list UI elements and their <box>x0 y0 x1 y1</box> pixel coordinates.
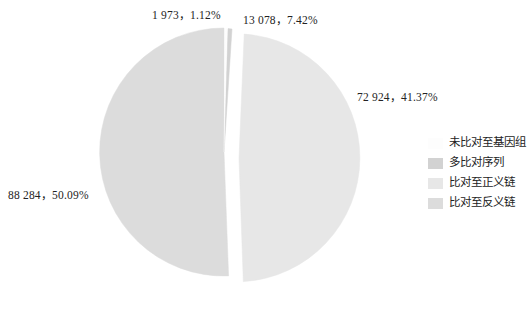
legend-item-antisense[interactable]: 比对至反义链 <box>428 193 528 213</box>
data-label-multi: 13 078，7.42% <box>243 15 318 27</box>
pie-svg <box>0 0 420 332</box>
data-label-unmapped: 1 973，1.12% <box>152 10 221 22</box>
data-label-sense: 72 924，41.37% <box>357 92 438 104</box>
pie-chart: 1 973，1.12% 13 078，7.42% 72 924，41.37% 8… <box>0 0 530 332</box>
legend-swatch-sense <box>428 178 443 189</box>
legend-label-sense: 比对至正义链 <box>449 177 515 189</box>
legend-label-unmapped: 未比对至基因组 <box>449 137 526 149</box>
legend-swatch-multi <box>428 158 443 169</box>
data-label-antisense: 88 284，50.09% <box>8 190 89 202</box>
legend-label-antisense: 比对至反义链 <box>449 197 515 209</box>
legend-swatch-unmapped <box>428 138 443 149</box>
legend: 未比对至基因组 多比对序列 比对至正义链 比对至反义链 <box>428 133 528 213</box>
pie-slice-antisense[interactable] <box>100 28 229 276</box>
legend-item-sense[interactable]: 比对至正义链 <box>428 173 528 193</box>
legend-item-multi[interactable]: 多比对序列 <box>428 153 528 173</box>
legend-item-unmapped[interactable]: 未比对至基因组 <box>428 133 528 153</box>
legend-label-multi: 多比对序列 <box>449 157 504 169</box>
pie-plot-area <box>0 0 420 332</box>
legend-swatch-antisense <box>428 198 443 209</box>
pie-slice-sense[interactable] <box>239 34 360 282</box>
